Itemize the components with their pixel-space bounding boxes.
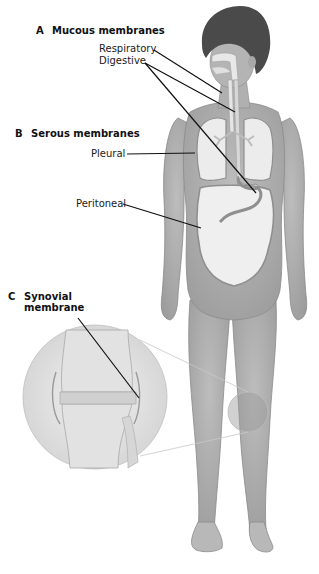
- label-respiratory: Respiratory: [99, 43, 156, 54]
- joint-cartilage: [60, 392, 136, 404]
- section-c-title-line2: membrane: [24, 302, 84, 313]
- section-b-title: Serous membranes: [31, 128, 140, 139]
- left-lung: [197, 118, 226, 180]
- section-a-letter: A: [36, 25, 52, 36]
- section-a-heading: AMucous membranes: [36, 25, 165, 36]
- section-a-title: Mucous membranes: [52, 25, 165, 36]
- label-pleural: Pleural: [91, 148, 125, 159]
- section-c-title-line1: Synovial: [24, 291, 72, 302]
- human-figure: [161, 6, 306, 552]
- section-b-letter: B: [15, 128, 31, 139]
- ear: [248, 56, 256, 68]
- right-lung: [244, 118, 273, 180]
- synovial-joint-inset: [23, 325, 167, 469]
- anatomy-illustration: [0, 0, 319, 574]
- left-foot: [192, 522, 223, 552]
- right-foot: [249, 522, 273, 552]
- label-peritoneal: Peritoneal: [76, 198, 126, 209]
- section-b-heading: BSerous membranes: [15, 128, 140, 139]
- knee-highlight: [228, 392, 268, 432]
- left-leg: [189, 300, 230, 532]
- label-digestive: Digestive: [99, 55, 146, 66]
- section-c-letter: C: [8, 291, 24, 302]
- femur: [61, 330, 132, 392]
- section-c-heading: CSynovial: [8, 291, 72, 302]
